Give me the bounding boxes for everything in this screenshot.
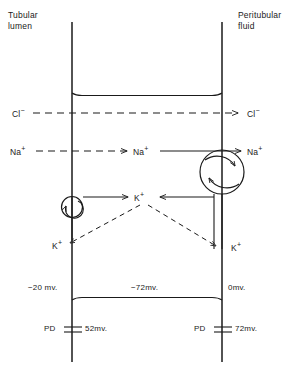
peritubular-fluid-label: Peritubular fluid: [238, 10, 281, 32]
potassium-label-peritubular: K+: [231, 241, 241, 253]
chloride-label-lumen: Cl−: [12, 107, 25, 119]
potential-lumen: −20 mv.: [28, 283, 58, 292]
peritubular-fluid-line2: fluid: [238, 21, 281, 32]
potassium-charge-left: +: [58, 239, 62, 246]
potassium-pump-feed-right: [214, 194, 222, 249]
potassium-label-lumen: K+: [52, 239, 62, 251]
tubular-lumen-line2: lumen: [8, 21, 38, 32]
potassium-charge-mid: +: [140, 191, 144, 198]
sodium-symbol-right: Na: [247, 147, 258, 157]
peritubular-fluid-line1: Peritubular: [238, 10, 281, 21]
sodium-label-cell: Na+: [133, 145, 149, 157]
chloride-label-peritubular: Cl−: [247, 107, 260, 119]
potential-cell: −72mv.: [131, 283, 158, 292]
pd-right-prefix: PD: [194, 324, 206, 333]
potassium-charge-right: +: [237, 241, 241, 248]
potential-peritubular: 0mv.: [228, 283, 246, 292]
sodium-symbol-left: Na: [10, 147, 21, 157]
tubular-cell-diagram: [0, 0, 297, 365]
sodium-label-lumen: Na+: [10, 145, 26, 157]
pd-left-prefix: PD: [44, 324, 56, 333]
tubular-lumen-line1: Tubular: [8, 10, 38, 21]
sodium-symbol-mid: Na: [133, 147, 144, 157]
potassium-backleak-right: [148, 205, 216, 246]
pd-left-value: 52mv.: [85, 324, 107, 333]
tubular-lumen-label: Tubular lumen: [8, 10, 38, 32]
pd-left-symbol: [64, 327, 82, 332]
chloride-charge-left: −: [20, 107, 24, 114]
sodium-label-peritubular: Na+: [247, 145, 263, 157]
potassium-backleak-left: [70, 205, 140, 243]
pd-right-symbol: [214, 327, 232, 332]
chloride-charge-right: −: [255, 107, 259, 114]
sodium-charge-left: +: [21, 145, 25, 152]
pd-right-value: 72mv.: [235, 324, 257, 333]
potassium-label-cell: K+: [134, 191, 144, 203]
sodium-charge-mid: +: [144, 145, 148, 152]
sodium-charge-right: +: [258, 145, 262, 152]
